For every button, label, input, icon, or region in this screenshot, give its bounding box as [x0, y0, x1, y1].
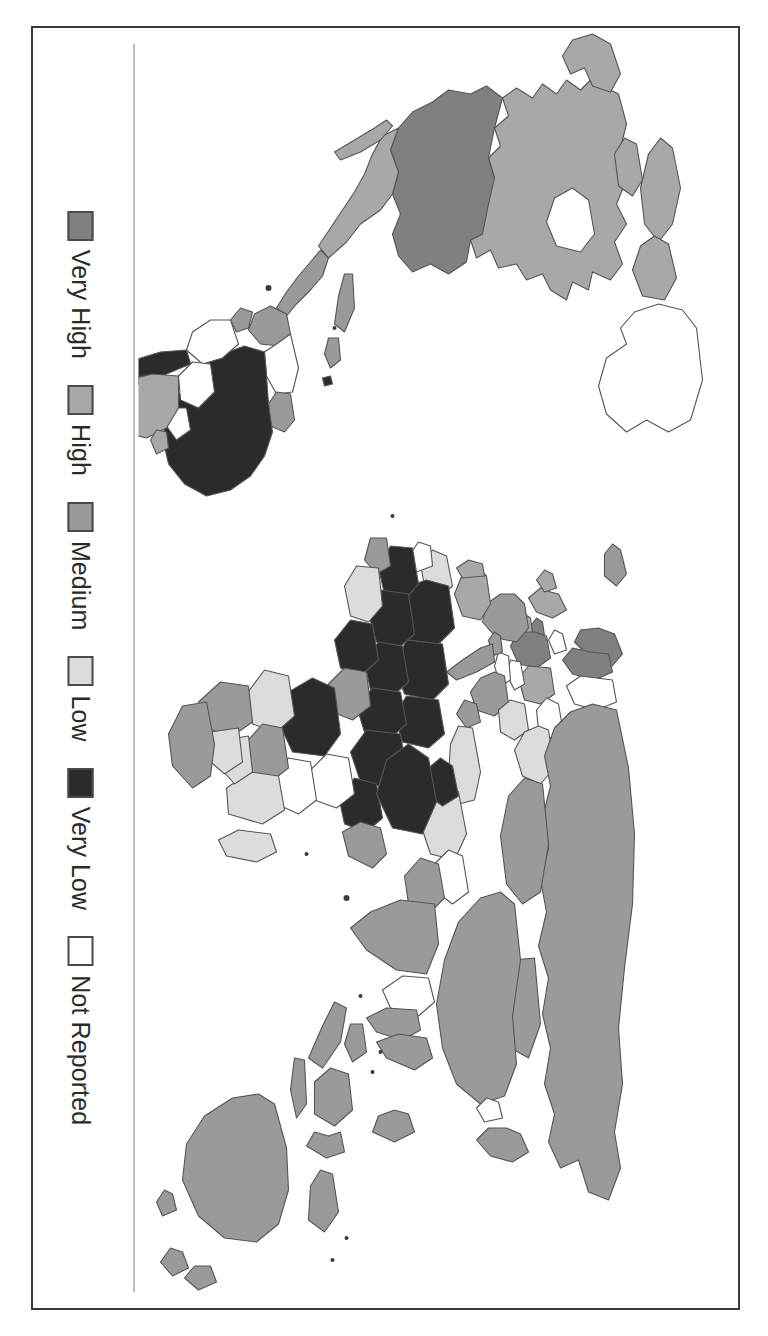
- world-map-svg: [138, 28, 738, 1308]
- legend-label-high: High: [66, 424, 95, 476]
- legend-item-not-reported[interactable]: Not Reported: [66, 936, 95, 1125]
- legend-item-low[interactable]: Low: [66, 656, 95, 741]
- rotated-figure-stage: Very High High Medium Low Very Low Not R: [33, 28, 738, 1308]
- figure-frame: Very High High Medium Low Very Low Not R: [31, 26, 740, 1310]
- legend-label-medium: Medium: [66, 541, 95, 631]
- legend-label-not-reported: Not Reported: [66, 975, 95, 1125]
- legend-item-high[interactable]: High: [66, 385, 95, 476]
- legend-swatch-low: [67, 656, 93, 686]
- legend-label-low: Low: [66, 695, 95, 741]
- legend-label-very-high: Very High: [66, 250, 95, 359]
- map-legend: Very High High Medium Low Very Low Not R: [34, 28, 134, 1308]
- legend-label-very-low: Very Low: [66, 807, 95, 911]
- legend-swatch-very-high: [67, 211, 93, 241]
- world-map[interactable]: [138, 28, 738, 1308]
- legend-item-very-low[interactable]: Very Low: [66, 768, 95, 911]
- legend-swatch-not-reported: [67, 936, 93, 966]
- legend-item-very-high[interactable]: Very High: [66, 211, 95, 359]
- legend-swatch-medium: [67, 502, 93, 532]
- legend-swatch-high: [67, 385, 93, 415]
- legend-divider-rule: [133, 44, 134, 1292]
- legend-swatch-very-low: [67, 768, 93, 798]
- legend-item-medium[interactable]: Medium: [66, 502, 95, 631]
